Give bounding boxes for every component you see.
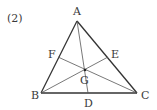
- label-d: D: [84, 97, 93, 110]
- label-b: B: [31, 89, 39, 102]
- centroid-g: [84, 69, 87, 72]
- side-ab: [41, 21, 77, 93]
- label-f: F: [48, 48, 56, 61]
- triangle-diagram: (2) A B C D E F G: [0, 0, 157, 110]
- label-g: G: [80, 74, 89, 87]
- label-c: C: [141, 89, 149, 102]
- problem-number: (2): [7, 12, 23, 25]
- label-a: A: [72, 5, 82, 18]
- label-e: E: [111, 48, 119, 61]
